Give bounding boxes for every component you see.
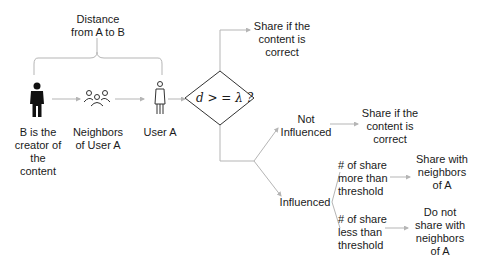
less-than-result-label: Do not share with neighbors of A [410, 206, 470, 258]
not-influenced-result-label: Share if the content is correct [358, 107, 422, 146]
more-than-threshold-label: # of share more than threshold [338, 159, 394, 198]
user-a-label: User A [135, 126, 185, 139]
person-filled-icon [30, 83, 44, 118]
creator-label: B is the creator of the content [8, 126, 68, 178]
not-influenced-label: Not Influenced [280, 113, 332, 139]
more-than-result-label: Share with neighbors of A [412, 153, 472, 192]
neighbors-label: Neighbors of User A [68, 126, 128, 152]
person-outline-icon [155, 82, 165, 115]
group-icon [84, 91, 110, 107]
top-outcome-label: Share if the content is correct [250, 20, 314, 59]
less-than-threshold-label: # of share less than threshold [338, 213, 394, 252]
influenced-label: Influenced [278, 196, 332, 209]
decision-text: d > = λ ? [196, 91, 253, 105]
distance-label: Distance from A to B [70, 13, 126, 39]
